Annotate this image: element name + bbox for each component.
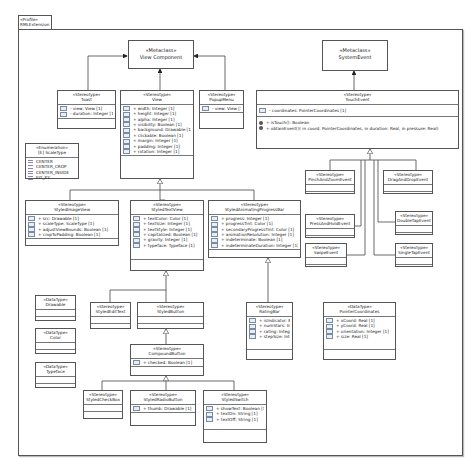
literal-icon	[28, 171, 33, 175]
attribute-icon	[249, 334, 256, 339]
class-name: [E] ScaleType	[27, 150, 77, 155]
stereotype-compound-button[interactable]: «Stereotype»CompoundButton + checked: Bo…	[130, 344, 204, 376]
attribute-icon	[206, 412, 213, 417]
attribute-icon	[211, 222, 218, 227]
stereotype-styled-radio-button[interactable]: «Stereotype»StyledRadioButton + thumb: D…	[130, 390, 196, 426]
attribute-row: + checked: Boolean [1]	[133, 360, 201, 365]
enumeration-scale-type[interactable]: «Enumeration»[E] ScaleType CENTER CENTER…	[25, 143, 79, 179]
datatype-pointer-coordinates[interactable]: «DataType»PointerCoordinates + xCoord: R…	[323, 302, 396, 360]
attribute-icon	[60, 112, 67, 117]
attribute-icon	[133, 360, 140, 365]
operation-icon	[259, 121, 263, 125]
datatype-drawable[interactable]: «DataType»Drawable	[35, 295, 76, 321]
class-name: StyledImageView	[27, 207, 117, 212]
literal-icon	[28, 176, 33, 180]
literal-icon	[28, 160, 33, 164]
stereotype-touch-event[interactable]: «Stereotype»TouchEvent - coordinates: Po…	[256, 90, 459, 149]
class-name: StyledEditText	[92, 309, 129, 314]
stereotype-styled-animating-progress-bar[interactable]: «Stereotype»StyledAnimatingProgressBar +…	[208, 200, 301, 258]
class-name: SwipeEvent	[307, 250, 345, 255]
operations-compartment	[209, 250, 300, 256]
operations-compartment	[58, 119, 115, 125]
attribute-icon	[259, 108, 266, 113]
datatype-typeface[interactable]: «DataType»Typeface	[35, 362, 76, 388]
attribute-icon	[133, 222, 140, 227]
class-name: SingleTapEvent	[397, 250, 431, 255]
attribute-row: + cropToPadding: Boolean [1]	[28, 232, 116, 237]
attribute-row: - duration: Integer [1]	[60, 111, 113, 116]
stereotype-swipe-event[interactable]: «Stereotype»SwipeEvent	[305, 243, 347, 267]
stereotype-single-tap-event[interactable]: «Stereotype»SingleTapEvent	[395, 243, 433, 267]
stereotype-styled-button[interactable]: «Stereotype»StyledButton	[137, 302, 204, 329]
class-name: CompoundButton	[132, 351, 202, 356]
class-name: View	[122, 97, 192, 102]
class-name: StyledAnimatingProgressBar	[210, 207, 299, 212]
stereotype-styled-image-view[interactable]: «Stereotype»StyledImageView + src: Drawa…	[25, 200, 119, 246]
stereotype-drag-and-drop-event[interactable]: «Stereotype»DragAndDropEvent	[383, 170, 433, 194]
operation-icon	[259, 126, 263, 130]
class-name: PinchAndZoomEvent	[307, 177, 353, 182]
stereotype-view[interactable]: «Stereotype»View + width: Integer [1] + …	[120, 90, 194, 179]
operation-row: + obtainEvent()( in coord: PointerCoordi…	[259, 126, 456, 131]
class-name: RatingBar	[248, 309, 291, 314]
class-name: Toast	[59, 97, 114, 102]
class-name: StyledCheckBox	[85, 397, 121, 402]
class-name: DragAndDropEvent	[385, 177, 431, 182]
attribute-icon	[326, 334, 333, 339]
operations-compartment	[121, 156, 193, 168]
class-name: DoubleTapEvent	[397, 218, 431, 223]
datatype-color[interactable]: «DataType»Color	[35, 328, 76, 354]
attribute-icon	[28, 222, 35, 227]
class-name: Drawable	[37, 302, 74, 307]
stereotype-styled-text-view[interactable]: «Stereotype»StyledTextView + textColor: …	[130, 200, 204, 271]
stereotype-popup-menu[interactable]: «Stereotype»PopupMenu - view: View [1]	[199, 90, 244, 129]
class-name: PointerCoordinates	[325, 309, 394, 314]
stereotype-double-tap-event[interactable]: «Stereotype»DoubleTapEvent	[395, 211, 433, 235]
attribute-icon	[123, 149, 130, 154]
stereotype-pinch-and-zoom-event[interactable]: «Stereotype»PinchAndZoomEvent	[305, 170, 355, 194]
attribute-row: + textOff: String [1]	[206, 417, 264, 422]
class-name: Color	[37, 335, 74, 340]
class-name: View Component	[130, 54, 192, 61]
stereotype-press-and-hold-event[interactable]: «Stereotype»PressAndHoldEvent	[305, 214, 355, 238]
stereotype-styled-edit-text[interactable]: «Stereotype»StyledEditText	[90, 302, 131, 329]
stereotype-styled-switch[interactable]: «Stereotype»StyledSwitch + showText: Boo…	[203, 390, 267, 443]
attribute-row: - coordinates: PointerCoordinates [1]	[259, 108, 456, 113]
attribute-icon	[123, 139, 130, 144]
class-name: PressAndHoldEvent	[307, 221, 353, 226]
stereotype-toast[interactable]: «Stereotype»Toast - view: View [1] - dur…	[57, 90, 116, 129]
attribute-row: + thumb: Drawable [1]	[133, 406, 193, 411]
attribute-icon	[211, 243, 218, 248]
class-name: Typeface	[37, 369, 74, 374]
metaclass-system-event[interactable]: «Metaclass» SystemEvent	[322, 40, 388, 71]
class-name: TouchEvent	[258, 97, 457, 102]
literal-row: FIT_XY	[28, 175, 76, 180]
attribute-row: - view: View [1]	[202, 106, 241, 111]
attribute-icon	[133, 243, 140, 248]
class-name: StyledSwitch	[205, 397, 265, 402]
stereotype-rating-bar[interactable]: «Stereotype»RatingBar + isIndicator: Boo…	[246, 302, 293, 360]
operations-compartment	[204, 430, 266, 436]
class-name: PopupMenu	[201, 97, 242, 102]
attribute-icon	[123, 112, 130, 117]
operations-compartment	[324, 350, 395, 356]
class-name: SystemEvent	[324, 54, 386, 61]
operations-compartment	[26, 239, 118, 245]
attribute-icon	[28, 232, 35, 237]
operations-compartment	[131, 413, 195, 419]
attribute-row: + typeface: Typeface [1]	[133, 243, 201, 248]
operations-compartment	[131, 367, 203, 373]
operations-compartment	[200, 113, 243, 119]
attribute-icon	[202, 106, 209, 111]
metaclass-view-component[interactable]: «Metaclass» View Component	[128, 40, 194, 69]
attribute-row: + stepSize: Integer [1]	[249, 334, 290, 339]
operations-compartment	[131, 260, 203, 266]
attribute-icon	[249, 324, 256, 329]
attribute-row: + size: Real [1]	[326, 334, 393, 339]
literal-icon	[28, 165, 33, 169]
attribute-icon	[133, 406, 140, 411]
class-name: StyledRadioButton	[132, 397, 194, 402]
class-name: StyledButton	[139, 309, 202, 314]
attribute-icon	[326, 324, 333, 329]
stereotype-styled-check-box[interactable]: «Stereotype»StyledCheckBox	[83, 390, 123, 419]
